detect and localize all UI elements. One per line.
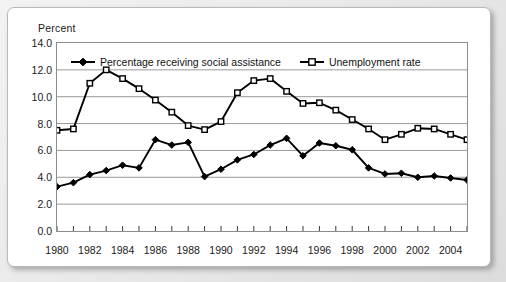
x-axis-tick-label: 1996 [308,244,331,256]
y-axis-tick-label: 10.0 [18,91,52,103]
filled-diamond-marker [57,183,60,190]
filled-diamond-marker [431,173,438,180]
x-axis-tick-label: 1994 [275,244,298,256]
plot-wrap [56,42,468,232]
open-square-marker [300,101,305,106]
x-axis-tick-label: 2000 [373,244,396,256]
open-square-marker [235,90,240,95]
filled-diamond-marker [415,174,422,181]
open-square-marker [415,126,420,131]
data-series-2 [57,67,467,142]
filled-diamond-marker [70,179,77,186]
data-series-1 [57,135,467,190]
x-axis-tick-label: 1988 [177,244,200,256]
legend-entry: Percentage receiving social assistance [70,56,281,68]
y-axis-tick-label: 2.0 [18,198,52,210]
open-square-marker [299,56,325,68]
open-square-marker [71,126,76,131]
open-square-marker [432,126,437,131]
series-line [57,138,467,186]
filled-diamond-marker [398,170,405,177]
x-axis-tick-label: 1986 [144,244,167,256]
open-square-marker [87,81,92,86]
open-square-marker [120,76,125,81]
x-axis-tick-label: 1980 [45,244,68,256]
open-square-marker [153,97,158,102]
filled-diamond-marker [119,162,126,169]
gridlines [57,70,467,204]
legend-entry: Unemployment rate [299,56,421,68]
x-axis-tick-label: 1992 [242,244,265,256]
open-square-marker [317,100,322,105]
y-axis-tick-label: 14.0 [18,37,52,49]
open-square-marker [448,132,453,137]
open-square-marker [186,123,191,128]
filled-diamond-marker [382,171,389,178]
filled-diamond-marker [70,56,96,68]
figure-root: Percent 0.02.04.06.08.010.012.014.0 1980… [0,0,506,282]
x-axis-tick-label: 2002 [406,244,429,256]
filled-diamond-marker [447,175,454,182]
filled-diamond-marker [333,142,340,149]
open-square-marker [464,137,467,142]
x-axis-ticks [57,226,467,231]
legend-label: Percentage receiving social assistance [100,57,281,68]
open-square-marker [350,117,355,122]
open-square-marker [57,128,60,133]
open-square-marker [268,76,273,81]
filled-diamond-marker [201,173,208,180]
series-line [57,70,467,140]
open-square-marker [218,119,223,124]
open-square-marker [169,109,174,114]
line-chart-canvas [57,43,467,231]
x-axis-tick-label: 1982 [78,244,101,256]
open-square-marker [333,107,338,112]
open-square-marker [399,132,404,137]
x-axis-tick-label: 1984 [111,244,134,256]
open-square-marker [251,78,256,83]
legend-label: Unemployment rate [329,57,421,68]
chart-frame: Percent 0.02.04.06.08.010.012.014.0 1980… [7,7,491,267]
open-square-marker [382,137,387,142]
x-axis-tick-label: 1990 [209,244,232,256]
y-axis-tick-label: 12.0 [18,64,52,76]
y-axis-title: Percent [38,22,76,34]
y-axis-tick-labels: 0.02.04.06.08.010.012.014.0 [12,42,52,232]
y-axis-tick-label: 6.0 [18,144,52,156]
plot-area [56,42,468,232]
x-axis-tick-label: 1998 [341,244,364,256]
chart-legend: Percentage receiving social assistanceUn… [70,56,421,68]
open-square-marker [202,127,207,132]
open-square-marker [284,89,289,94]
open-square-marker [366,126,371,131]
filled-diamond-marker [169,142,176,149]
filled-diamond-marker [103,167,110,174]
open-square-marker [136,86,141,91]
x-axis-tick-label: 2004 [439,244,462,256]
filled-diamond-marker [185,139,192,146]
y-axis-tick-label: 0.0 [18,225,52,237]
y-axis-tick-label: 4.0 [18,171,52,183]
y-axis-tick-label: 8.0 [18,118,52,130]
x-axis-tick-labels: 1980198219841986198819901992199419961998… [56,244,468,260]
